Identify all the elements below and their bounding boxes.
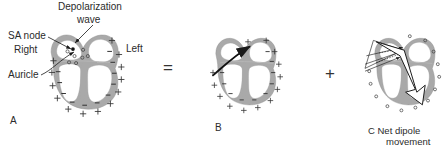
panel-c-caption-line1: C Net dipole [368,126,420,136]
panel-c-diagram [365,35,441,112]
label-left: Left [126,44,143,55]
panel-b-diagram [210,38,283,114]
sa-node-marker [71,47,75,51]
label-sa-node: SA node [8,31,46,42]
panel-c-caption-line2: movement [386,137,430,147]
label-depolarization-wave-line1: Depolarization [58,2,122,13]
operator-plus: + [325,65,335,82]
operator-equals: = [163,59,173,76]
panel-a-diagram [49,35,125,117]
label-auricle: Auricle [8,70,39,81]
panel-label-a: A [10,116,17,127]
heart-outline-a [51,35,118,109]
label-right: Right [14,45,37,56]
figure-root: Depolarization wave SA node Right Left A… [0,0,448,151]
label-depolarization-wave-line2: wave [77,15,100,26]
heart-outline-c [375,38,435,105]
panel-label-b: B [215,123,222,134]
